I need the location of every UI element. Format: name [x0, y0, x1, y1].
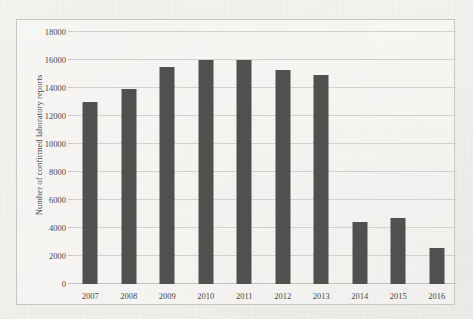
bar-series: 2007200820092010201120122013201420152016: [71, 32, 456, 284]
x-axis-tick-label: 2016: [428, 291, 445, 301]
bar-group: 2013: [302, 32, 341, 284]
y-axis-tick-label: 14000: [45, 83, 66, 93]
y-axis-tick-label: 18000: [45, 27, 66, 37]
bar: [429, 248, 444, 284]
y-axis-tick-label: 6000: [49, 195, 66, 205]
x-axis-tick-label: 2015: [390, 291, 407, 301]
x-axis-tick-label: 2011: [236, 291, 253, 301]
bar-group: 2009: [148, 32, 187, 284]
y-axis-tick-label: 8000: [49, 167, 66, 177]
bar-group: 2016: [418, 32, 457, 284]
bar-group: 2007: [71, 32, 110, 284]
bar: [314, 75, 329, 284]
plot-wrapper: Number of confirmed laboratory reports 0…: [17, 20, 454, 304]
bar: [198, 60, 213, 284]
x-axis-tick-label: 2013: [313, 291, 330, 301]
bar: [237, 60, 252, 284]
chart-frame: Number of confirmed laboratory reports 0…: [16, 19, 455, 305]
x-axis-tick-label: 2010: [197, 291, 214, 301]
bar-group: 2015: [379, 32, 418, 284]
bar-group: 2008: [110, 32, 149, 284]
bar: [83, 102, 98, 284]
x-axis-tick-label: 2014: [351, 291, 368, 301]
bar-group: 2014: [341, 32, 380, 284]
bar-group: 2011: [225, 32, 264, 284]
y-axis-title: Number of confirmed laboratory reports: [34, 30, 44, 260]
y-axis-tick-label: 10000: [45, 139, 66, 149]
bar: [391, 218, 406, 284]
plot-area: 0200040006000800010000120001400016000180…: [71, 32, 456, 284]
bar: [352, 222, 367, 284]
x-axis-tick-label: 2008: [120, 291, 137, 301]
y-axis-tick-label: 0: [62, 279, 66, 289]
scanned-page: Number of confirmed laboratory reports 0…: [0, 0, 473, 319]
bar: [160, 67, 175, 284]
y-axis-tick-label: 16000: [45, 55, 66, 65]
y-axis-tick-label: 12000: [45, 111, 66, 121]
x-axis-tick-label: 2009: [159, 291, 176, 301]
bar: [121, 89, 136, 284]
y-axis-tick-label: 4000: [49, 223, 66, 233]
x-axis-tick-label: 2007: [82, 291, 99, 301]
bar-group: 2010: [187, 32, 226, 284]
bar-group: 2012: [264, 32, 303, 284]
y-axis-tick-label: 2000: [49, 251, 66, 261]
bar: [275, 70, 290, 284]
x-axis-tick-label: 2012: [274, 291, 291, 301]
